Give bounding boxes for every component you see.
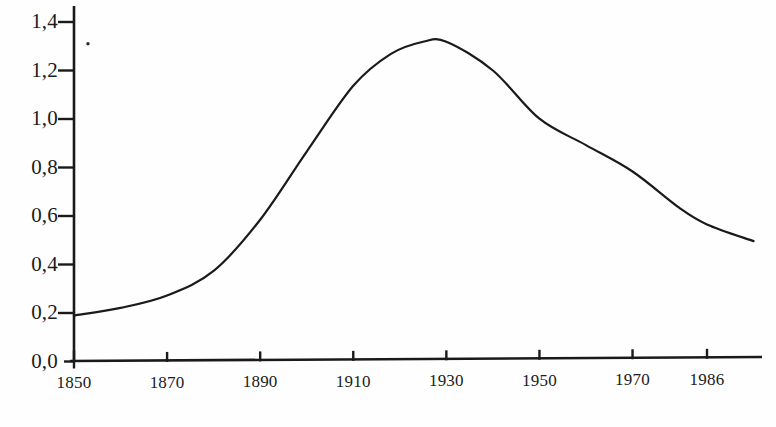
x-axis-tick-label: 1970 [593,370,673,390]
chart-figure: 0,00,20,40,60,81,01,21,4 185018701890191… [0,0,776,427]
x-axis-tick-label: 1870 [127,373,207,393]
x-axis-tick-label: 1930 [406,371,486,391]
annotation-layer [86,42,89,45]
y-axis-tick-label: 0,6 [4,203,58,228]
y-axis-tick-label: 1,2 [4,58,58,83]
x-axis-line [70,357,762,361]
y-axis-tick-label: 0,4 [4,252,58,277]
y-axis-tick-label: 1,0 [4,106,58,131]
y-axis-ticks [58,22,74,362]
y-axis-tick-label: 0,8 [4,155,58,180]
y-axis-tick-label: 0,0 [4,349,58,374]
y-axis-tick-label: 0,2 [4,300,58,325]
y-axis-tick-label: 1,4 [4,9,58,34]
x-axis-tick-label: 1950 [499,371,579,391]
x-axis-tick-label: 1890 [220,372,300,392]
stray-dot-marker [86,42,89,45]
chart-plot-area [0,0,776,427]
x-axis-tick-label: 1850 [34,373,114,393]
x-axis-tick-label: 1986 [667,370,747,390]
x-axis-tick-label: 1910 [313,372,393,392]
data-series-curve [74,39,754,315]
